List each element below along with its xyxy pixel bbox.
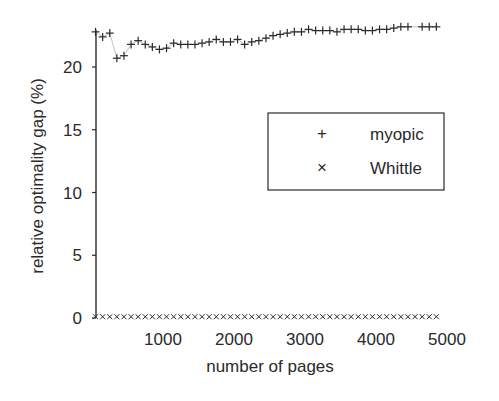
whittle-point	[349, 314, 354, 319]
whittle-point	[384, 314, 389, 319]
myopic-point	[120, 52, 128, 60]
myopic-point	[319, 27, 327, 35]
myopic-point	[248, 38, 256, 46]
y-axis-label: relative optimality gap (%)	[28, 78, 47, 274]
myopic-point	[134, 37, 142, 45]
whittle-point	[256, 314, 261, 319]
myopic-point	[92, 28, 100, 36]
myopic-point	[234, 35, 242, 43]
whittle-point	[207, 314, 212, 319]
whittle-point	[178, 314, 183, 319]
whittle-point	[342, 314, 347, 319]
myopic-point	[255, 37, 263, 45]
x-tick-label: 2000	[215, 330, 253, 349]
myopic-point	[312, 27, 320, 35]
myopic-point	[326, 27, 334, 35]
whittle-point	[377, 314, 382, 319]
whittle-point	[306, 314, 311, 319]
x-axis-label: number of pages	[206, 357, 334, 376]
series-myopic	[92, 23, 441, 62]
legend-label-whittle: Whittle	[370, 159, 422, 178]
legend-marker-myopic: +	[317, 124, 327, 143]
legend: + myopic × Whittle	[268, 113, 444, 190]
myopic-point	[212, 35, 220, 43]
whittle-point	[427, 314, 432, 319]
x-tick-label: 1000	[144, 330, 182, 349]
myopic-point	[163, 44, 171, 52]
myopic-point	[333, 28, 341, 36]
whittle-point	[228, 314, 233, 319]
whittle-point	[398, 314, 403, 319]
myopic-point	[141, 40, 149, 48]
whittle-point	[171, 314, 176, 319]
whittle-point	[413, 314, 418, 319]
myopic-point	[404, 23, 412, 31]
myopic-point	[290, 28, 298, 36]
myopic-point	[276, 30, 284, 38]
y-tick-label: 15	[63, 121, 82, 140]
myopic-point	[191, 40, 199, 48]
myopic-point	[305, 25, 313, 33]
whittle-point	[235, 314, 240, 319]
whittle-point	[185, 314, 190, 319]
y-tick-label: 5	[73, 246, 82, 265]
myopic-point	[390, 24, 398, 32]
whittle-point	[292, 314, 297, 319]
whittle-point	[114, 314, 119, 319]
whittle-point	[271, 314, 276, 319]
whittle-point	[192, 314, 197, 319]
whittle-point	[121, 314, 126, 319]
whittle-point	[299, 314, 304, 319]
myopic-point	[425, 23, 433, 31]
whittle-point	[129, 314, 134, 319]
whittle-point	[320, 314, 325, 319]
whittle-point	[356, 314, 361, 319]
myopic-point	[184, 40, 192, 48]
myopic-point	[198, 39, 206, 47]
myopic-point	[347, 25, 355, 33]
x-tick-label: 3000	[286, 330, 324, 349]
whittle-point	[434, 314, 439, 319]
whittle-point	[136, 314, 141, 319]
myopic-point	[297, 28, 305, 36]
y-ticks: 05101520	[63, 58, 96, 328]
myopic-point	[219, 38, 227, 46]
series-whittle	[93, 314, 439, 319]
myopic-point	[177, 40, 185, 48]
myopic-point	[106, 29, 114, 37]
myopic-point	[262, 34, 270, 42]
whittle-point	[242, 314, 247, 319]
myopic-point	[397, 23, 405, 31]
whittle-point	[313, 314, 318, 319]
whittle-point	[164, 314, 169, 319]
myopic-point	[113, 54, 121, 62]
whittle-point	[405, 314, 410, 319]
whittle-point	[221, 314, 226, 319]
myopic-point	[269, 32, 277, 40]
x-ticks: 10002000300040005000	[144, 330, 466, 349]
whittle-point	[214, 314, 219, 319]
myopic-point	[376, 25, 384, 33]
whittle-point	[157, 314, 162, 319]
whittle-point	[327, 314, 332, 319]
legend-label-myopic: myopic	[370, 125, 424, 144]
y-tick-label: 20	[63, 58, 82, 77]
myopic-point	[226, 38, 234, 46]
whittle-point	[150, 314, 155, 319]
whittle-point	[334, 314, 339, 319]
whittle-point	[143, 314, 148, 319]
whittle-point	[278, 314, 283, 319]
whittle-point	[100, 314, 105, 319]
myopic-point	[432, 23, 440, 31]
whittle-point	[263, 314, 268, 319]
myopic-point	[99, 33, 107, 41]
whittle-point	[370, 314, 375, 319]
x-tick-label: 5000	[428, 330, 466, 349]
myopic-point	[155, 45, 163, 53]
x-tick-label: 4000	[357, 330, 395, 349]
legend-marker-whittle: ×	[317, 158, 327, 177]
myopic-point	[283, 29, 291, 37]
whittle-point	[391, 314, 396, 319]
chart: 05101520 10002000300040005000 relative o…	[0, 0, 499, 401]
myopic-point	[354, 25, 362, 33]
